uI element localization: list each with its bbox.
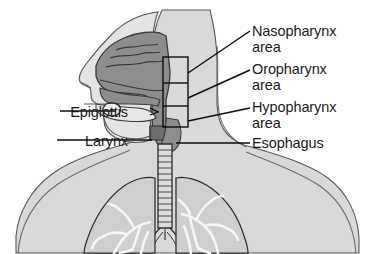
- label-hypopharynx-line1: Hypopharynx: [252, 100, 336, 116]
- label-oropharynx: Oropharynx area: [252, 62, 327, 93]
- anatomy-figure: Nasopharynx area Oropharynx area Hypopha…: [0, 0, 374, 254]
- label-larynx-line1: Larynx: [85, 134, 128, 150]
- label-esophagus-line1: Esophagus: [252, 136, 324, 152]
- label-epiglottis: Epiglottis: [70, 105, 128, 121]
- label-oropharynx-line1: Oropharynx: [252, 62, 327, 78]
- label-esophagus: Esophagus: [252, 136, 324, 152]
- label-hypopharynx: Hypopharynx area: [252, 100, 336, 131]
- label-nasopharynx-line1: Nasopharynx: [252, 24, 336, 40]
- label-hypopharynx-line2: area: [252, 116, 336, 132]
- label-larynx: Larynx: [85, 134, 128, 150]
- label-oropharynx-line2: area: [252, 78, 327, 94]
- label-nasopharynx-line2: area: [252, 40, 336, 56]
- label-epiglottis-line1: Epiglottis: [70, 105, 128, 121]
- label-nasopharynx: Nasopharynx area: [252, 24, 336, 55]
